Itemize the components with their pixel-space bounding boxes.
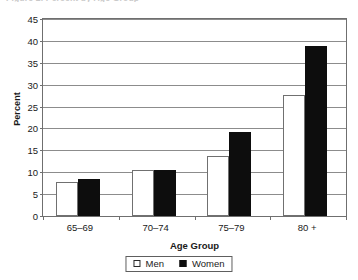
legend-entry-women: Women (180, 259, 225, 269)
y-axis-title: Percent (12, 79, 22, 139)
y-axis-tick-mark (40, 63, 43, 64)
x-axis-category-label: 80 + (269, 222, 345, 233)
y-axis-tick-mark (40, 150, 43, 151)
y-axis-tick-mark (40, 107, 43, 108)
y-axis-tick-label: 40 (27, 35, 38, 46)
bar-men-2 (207, 156, 229, 216)
bar-women-0 (78, 179, 100, 216)
bar-men-3 (283, 95, 305, 216)
y-axis-tick-label: 15 (27, 145, 38, 156)
bar-men-0 (56, 182, 78, 216)
x-axis-title: Age Group (42, 240, 347, 251)
gridline (43, 63, 346, 64)
legend-label-men: Men (145, 259, 163, 269)
legend-swatch-men-icon (133, 260, 140, 267)
y-axis-tick-label: 25 (27, 101, 38, 112)
y-axis-tick-label: 20 (27, 123, 38, 134)
x-axis-tick-mark (346, 216, 347, 220)
plot-inner: 051015202530354045 (43, 19, 346, 216)
legend-swatch-women-icon (180, 260, 187, 267)
y-axis-tick-label: 45 (27, 14, 38, 25)
gridline (43, 19, 346, 20)
gridline (43, 41, 346, 42)
bar-men-1 (132, 170, 154, 216)
x-axis-tick-mark (270, 216, 271, 220)
bar-chart: Percent 051015202530354045 Age Group Men… (0, 0, 358, 280)
y-axis-tick-label: 0 (33, 211, 38, 222)
x-axis-category-label: 75–79 (194, 222, 270, 233)
y-axis-tick-label: 30 (27, 79, 38, 90)
x-axis-category-label: 65–69 (42, 222, 118, 233)
y-axis-tick-mark (40, 128, 43, 129)
legend-entry-men: Men (133, 259, 163, 269)
x-axis-tick-mark (43, 216, 44, 220)
gridline (43, 85, 346, 86)
y-axis-tick-mark (40, 172, 43, 173)
legend-label-women: Women (192, 259, 225, 269)
y-axis-tick-label: 35 (27, 57, 38, 68)
plot-area: 051015202530354045 (42, 18, 347, 217)
y-axis-tick-mark (40, 85, 43, 86)
y-axis-tick-mark (40, 41, 43, 42)
y-axis-tick-mark (40, 19, 43, 20)
x-axis-tick-mark (119, 216, 120, 220)
x-axis-category-label: 70–74 (118, 222, 194, 233)
chart-legend: Men Women (125, 256, 232, 272)
y-axis-tick-mark (40, 194, 43, 195)
y-axis-tick-label: 10 (27, 167, 38, 178)
y-axis-tick-label: 5 (33, 189, 38, 200)
bar-women-1 (154, 170, 176, 216)
bar-women-3 (305, 46, 327, 216)
x-axis-tick-mark (195, 216, 196, 220)
bar-women-2 (229, 132, 251, 216)
